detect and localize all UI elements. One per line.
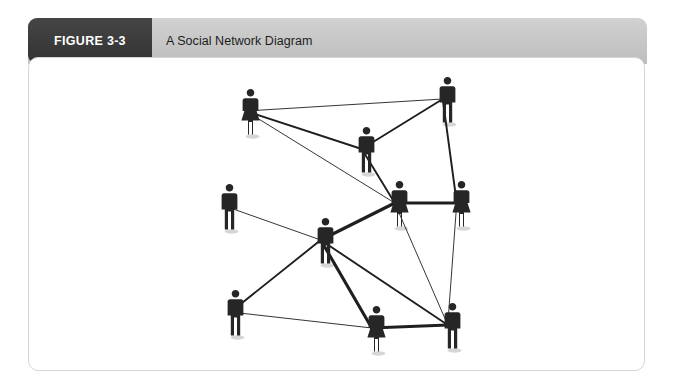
network-edge xyxy=(246,99,443,111)
node-layer xyxy=(222,77,471,356)
figure-container: FIGURE 3-3 A Social Network Diagram xyxy=(28,18,647,373)
male-person-icon xyxy=(222,184,238,230)
social-network-graph xyxy=(29,58,645,371)
person-shadow xyxy=(395,226,409,230)
person-shadow xyxy=(372,351,386,355)
person-node-icon[interactable] xyxy=(228,290,245,340)
person-shadow xyxy=(448,348,462,352)
network-edge xyxy=(246,111,395,203)
person-shadow xyxy=(362,172,376,176)
network-edge xyxy=(321,240,448,325)
person-shadow xyxy=(246,134,260,138)
person-node-icon[interactable] xyxy=(440,77,457,127)
female-person-icon xyxy=(241,89,259,135)
person-node-icon[interactable] xyxy=(222,184,239,234)
person-node-icon[interactable] xyxy=(390,181,408,231)
network-edge xyxy=(231,312,372,328)
person-shadow xyxy=(443,122,457,126)
person-node-icon[interactable] xyxy=(241,89,259,139)
person-shadow xyxy=(457,226,471,230)
person-node-icon[interactable] xyxy=(445,303,462,353)
person-shadow xyxy=(225,229,239,233)
male-person-icon xyxy=(440,77,456,123)
person-node-icon[interactable] xyxy=(367,306,385,356)
network-edge xyxy=(225,206,321,240)
network-diagram-canvas xyxy=(28,57,645,371)
edge-layer xyxy=(225,99,457,328)
network-edge xyxy=(231,240,321,312)
male-person-icon xyxy=(445,303,461,349)
person-shadow xyxy=(321,263,335,267)
male-person-icon xyxy=(228,290,244,336)
person-node-icon[interactable] xyxy=(359,127,376,177)
network-edge xyxy=(246,111,362,149)
figure-number-label: FIGURE 3-3 xyxy=(54,34,126,48)
person-shadow xyxy=(231,335,245,339)
